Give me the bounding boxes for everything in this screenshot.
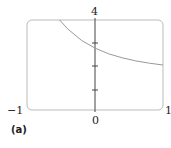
subfigure-label: (a) xyxy=(11,124,27,135)
x-max-label: 1 xyxy=(165,104,171,117)
y-max-label: 4 xyxy=(91,5,98,18)
data-curve xyxy=(60,20,163,65)
x-zero-label: 0 xyxy=(92,114,99,127)
x-min-label: −1 xyxy=(7,104,23,117)
